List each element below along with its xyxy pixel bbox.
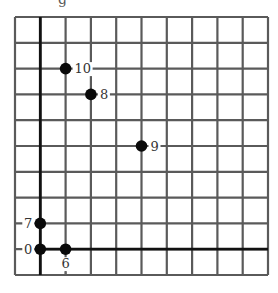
point-6 (60, 243, 72, 255)
point-label-9: 9 (151, 139, 159, 154)
grid-plot: 1089706 (0, 0, 278, 293)
point-label-6: 6 (61, 256, 69, 271)
point-8 (85, 89, 97, 101)
point-label-10: 10 (75, 61, 92, 76)
point-label-0: 0 (24, 242, 32, 257)
coordinate-grid-diagram: g 1089706 (0, 0, 278, 293)
point-9 (136, 140, 148, 152)
point-label-7: 7 (24, 216, 32, 231)
point-0 (35, 243, 47, 255)
point-label-8: 8 (100, 87, 108, 102)
point-10 (60, 63, 72, 75)
point-7 (35, 218, 47, 230)
